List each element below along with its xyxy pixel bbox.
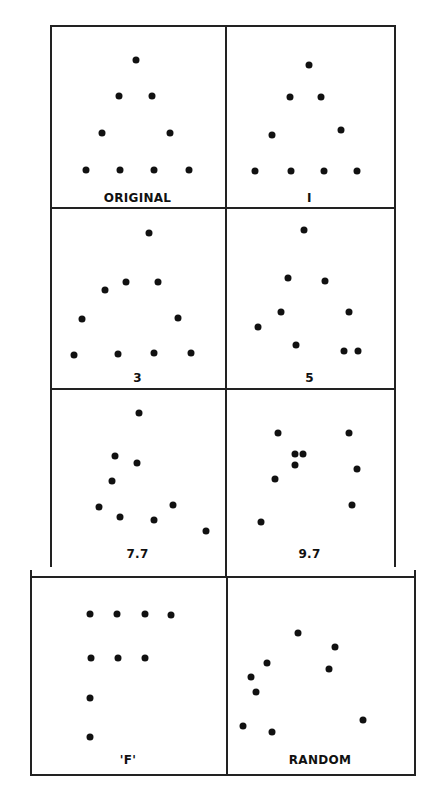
dot [146, 230, 153, 237]
dot [175, 315, 182, 322]
dot [258, 519, 265, 526]
dot [293, 342, 300, 349]
pattern-panel: 7.7 [50, 389, 225, 567]
dot [318, 94, 325, 101]
panel-label: 7.7 [50, 547, 225, 561]
dot [354, 466, 361, 473]
dot [326, 666, 333, 673]
dot [255, 324, 262, 331]
dot [186, 167, 193, 174]
dot [288, 168, 295, 175]
dot [112, 453, 119, 460]
dot-pattern-figure: ORIGINALI357.79.7'F'RANDOM [0, 0, 433, 807]
dot [272, 476, 279, 483]
dot [142, 611, 149, 618]
pattern-panel: 'F' [30, 576, 226, 775]
panel-label: 'F' [30, 753, 226, 767]
pattern-panel: 3 [50, 208, 225, 389]
dot [151, 517, 158, 524]
pattern-panel: RANDOM [226, 576, 414, 775]
dot [117, 514, 124, 521]
dot [114, 611, 121, 618]
dot [248, 674, 255, 681]
dot [115, 351, 122, 358]
dot [136, 410, 143, 417]
dot [253, 689, 260, 696]
dot [155, 279, 162, 286]
frame-bottom-row-right [414, 570, 416, 776]
dot [88, 655, 95, 662]
pattern-panel: 9.7 [225, 389, 394, 567]
panel-label: I [225, 191, 394, 205]
pattern-panel: I [225, 25, 394, 208]
dot [83, 167, 90, 174]
pattern-panel: 5 [225, 208, 394, 389]
dot [151, 350, 158, 357]
dot [102, 287, 109, 294]
dot [99, 130, 106, 137]
frame-right-upper [394, 25, 396, 567]
dot [252, 168, 259, 175]
dot [79, 316, 86, 323]
dot [346, 430, 353, 437]
panel-label: ORIGINAL [50, 191, 225, 205]
panel-label: 3 [50, 371, 225, 385]
dot [332, 644, 339, 651]
dot [346, 309, 353, 316]
dot [300, 451, 307, 458]
dot [203, 528, 210, 535]
dot [338, 127, 345, 134]
panel-label: 5 [225, 371, 394, 385]
dot [123, 279, 130, 286]
dot [149, 93, 156, 100]
dot [109, 478, 116, 485]
dot [275, 430, 282, 437]
dot [240, 723, 247, 730]
dot [278, 309, 285, 316]
dot [115, 655, 122, 662]
dot [134, 460, 141, 467]
dot [168, 612, 175, 619]
dot [321, 168, 328, 175]
dot [133, 57, 140, 64]
dot [167, 130, 174, 137]
dot [301, 227, 308, 234]
dot [142, 655, 149, 662]
dot [87, 611, 94, 618]
dot [341, 348, 348, 355]
panel-label: RANDOM [226, 753, 414, 767]
dot [71, 352, 78, 359]
dot [87, 734, 94, 741]
dot [87, 695, 94, 702]
dot [117, 167, 124, 174]
pattern-panel: ORIGINAL [50, 25, 225, 208]
dot [116, 93, 123, 100]
dot [295, 630, 302, 637]
dot [360, 717, 367, 724]
dot [292, 462, 299, 469]
dot [306, 62, 313, 69]
dot [322, 278, 329, 285]
dot [287, 94, 294, 101]
dot [264, 660, 271, 667]
dot [354, 168, 361, 175]
dot [151, 167, 158, 174]
dot [292, 451, 299, 458]
dot [170, 502, 177, 509]
dot [188, 350, 195, 357]
dot [269, 132, 276, 139]
panel-label: 9.7 [225, 547, 394, 561]
dot [285, 275, 292, 282]
dot [349, 502, 356, 509]
dot [269, 729, 276, 736]
dot [355, 348, 362, 355]
dot [96, 504, 103, 511]
